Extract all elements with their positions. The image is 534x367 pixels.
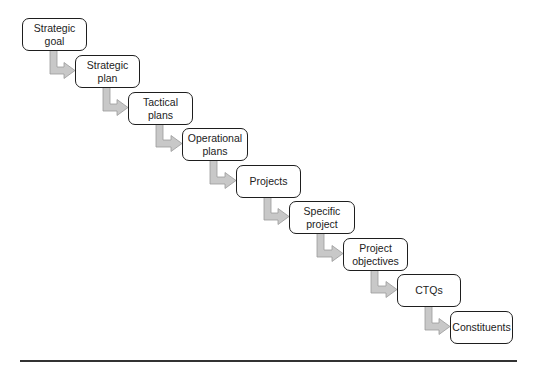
elbow-arrow-icon	[371, 270, 397, 298]
step-label-line: Tactical	[143, 96, 178, 109]
step-box-projects: Projects	[236, 165, 301, 198]
step-label: Projects	[250, 175, 288, 188]
step-box-constituents: Constituents	[450, 311, 513, 344]
step-label-line: plan	[87, 72, 128, 85]
elbow-arrow-icon	[317, 233, 343, 262]
step-box-operational-plans: Operationalplans	[182, 128, 248, 161]
step-label-line: Operational	[188, 132, 242, 145]
step-box-strategic-goal: Strategicgoal	[22, 18, 87, 51]
step-label: Strategicplan	[87, 59, 128, 85]
step-label-line: Projects	[250, 175, 288, 188]
step-label: Operationalplans	[188, 132, 242, 158]
elbow-arrow-icon	[50, 50, 75, 79]
step-box-ctqs: CTQs	[397, 274, 461, 307]
elbow-arrow-icon	[264, 197, 289, 225]
step-label-line: Constituents	[452, 321, 510, 334]
step-label-line: Strategic	[34, 22, 75, 35]
step-box-specific-project: Specificproject	[289, 201, 355, 234]
step-label: CTQs	[415, 284, 442, 297]
step-label: Tacticalplans	[143, 96, 178, 122]
step-label-line: project	[304, 218, 341, 231]
step-label-line: goal	[34, 35, 75, 48]
step-label: Constituents	[452, 321, 510, 334]
step-label-line: plans	[188, 145, 242, 158]
step-box-strategic-plan: Strategicplan	[75, 55, 140, 88]
step-label: Specificproject	[304, 205, 341, 231]
elbow-arrow-icon	[425, 306, 450, 335]
step-label-line: Strategic	[87, 59, 128, 72]
step-label: Strategicgoal	[34, 22, 75, 48]
step-label-line: plans	[143, 109, 178, 122]
step-label-line: Specific	[304, 205, 341, 218]
elbow-arrow-icon	[210, 160, 236, 189]
step-box-project-objectives: Projectobjectives	[343, 238, 408, 271]
elbow-arrow-icon	[103, 87, 128, 116]
step-label-line: Project	[352, 242, 399, 255]
step-label-line: objectives	[352, 255, 399, 268]
step-label: Projectobjectives	[352, 242, 399, 268]
step-box-tactical-plans: Tacticalplans	[128, 92, 193, 125]
step-label-line: CTQs	[415, 284, 442, 297]
elbow-arrow-icon	[156, 124, 182, 152]
